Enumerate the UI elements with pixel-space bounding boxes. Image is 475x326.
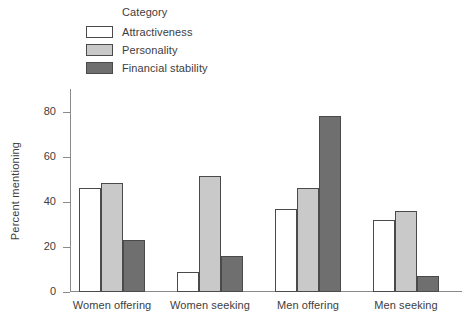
y-axis-tick bbox=[63, 202, 70, 203]
legend-item-label: Personality bbox=[122, 44, 178, 56]
bar bbox=[221, 256, 243, 292]
legend-swatch-icon bbox=[86, 62, 113, 74]
y-axis-line bbox=[70, 89, 71, 292]
chart-legend: Category AttractivenessPersonalityFinanc… bbox=[86, 6, 306, 77]
y-axis-tick bbox=[63, 157, 70, 158]
bar bbox=[101, 183, 123, 292]
y-axis-tick-label: 0 bbox=[30, 285, 56, 297]
x-axis-tick-label: Men seeking bbox=[357, 299, 455, 311]
x-axis-tick-label: Women seeking bbox=[161, 299, 259, 311]
bar bbox=[417, 276, 439, 292]
bar bbox=[123, 240, 145, 292]
legend-item-label: Financial stability bbox=[122, 62, 208, 74]
y-axis-tick-label: 20 bbox=[30, 240, 56, 252]
x-axis-tick-label: Men offering bbox=[259, 299, 357, 311]
legend-item[interactable]: Attractiveness bbox=[86, 23, 306, 40]
legend-title: Category bbox=[122, 6, 306, 18]
bar bbox=[319, 116, 341, 292]
bar bbox=[199, 176, 221, 292]
legend-items: AttractivenessPersonalityFinancial stabi… bbox=[86, 23, 306, 76]
y-axis-label-container: Percent mentioning bbox=[6, 89, 24, 292]
bar bbox=[79, 188, 101, 292]
bar-chart: Category AttractivenessPersonalityFinanc… bbox=[0, 0, 475, 326]
x-axis-tick-label: Women offering bbox=[63, 299, 161, 311]
legend-item[interactable]: Financial stability bbox=[86, 59, 306, 76]
bar bbox=[297, 188, 319, 292]
legend-item-label: Attractiveness bbox=[122, 26, 192, 38]
legend-item[interactable]: Personality bbox=[86, 41, 306, 58]
bar bbox=[373, 220, 395, 292]
y-axis-tick-label: 80 bbox=[30, 105, 56, 117]
y-axis-tick-label: 40 bbox=[30, 195, 56, 207]
bar bbox=[177, 272, 199, 292]
plot-area bbox=[70, 89, 462, 292]
legend-swatch-icon bbox=[86, 26, 113, 38]
bar bbox=[275, 209, 297, 292]
y-axis-tick bbox=[63, 292, 70, 293]
bar bbox=[395, 211, 417, 292]
y-axis-tick bbox=[63, 112, 70, 113]
y-axis-label: Percent mentioning bbox=[9, 141, 21, 239]
y-axis-tick-label: 60 bbox=[30, 150, 56, 162]
y-axis-tick bbox=[63, 247, 70, 248]
legend-swatch-icon bbox=[86, 44, 113, 56]
